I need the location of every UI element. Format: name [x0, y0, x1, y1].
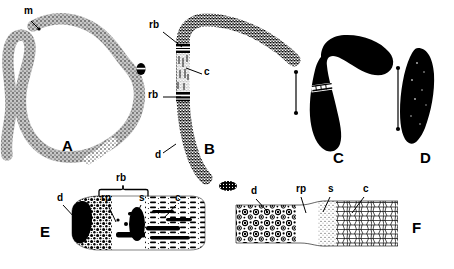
- figure-drawing: [0, 0, 454, 269]
- figure-canvas: A B C D E F m rb c rb d rb rp s d c d rp…: [0, 0, 454, 269]
- label-rb-panel-e: rb: [116, 173, 126, 183]
- label-d-panel-f: d: [251, 186, 257, 196]
- panel-label-d: D: [420, 150, 431, 165]
- panel-label-a: A: [62, 138, 73, 153]
- panel-label-f: F: [412, 220, 421, 235]
- label-c-panel-f: c: [363, 184, 369, 194]
- panel-e-section: [70, 194, 210, 254]
- panel-c-body: [310, 35, 393, 152]
- scale-arrow-c: [294, 70, 298, 115]
- panel-label-e: E: [40, 224, 50, 239]
- panel-label-b: B: [204, 141, 215, 156]
- panel-f-fragment: [219, 181, 237, 191]
- label-m-panel-a: m: [24, 6, 33, 16]
- label-c-panel-e: c: [175, 193, 181, 203]
- label-d-panel-b: d: [155, 150, 161, 160]
- label-rp-panel-f: rp: [296, 184, 306, 194]
- label-rb-lower-panel-b: rb: [148, 90, 158, 100]
- label-rp-panel-e: rp: [101, 193, 111, 203]
- label-d-panel-e: d: [57, 193, 63, 203]
- scale-arrow-d: [396, 66, 400, 131]
- label-c-panel-b: c: [204, 67, 210, 77]
- panel-label-c: C: [333, 150, 344, 165]
- panel-d-body: [400, 48, 434, 144]
- label-s-panel-e: s: [139, 193, 145, 203]
- label-rb-upper-panel-b: rb: [149, 20, 159, 30]
- label-s-panel-f: s: [328, 184, 334, 194]
- panel-f-section: [234, 198, 406, 250]
